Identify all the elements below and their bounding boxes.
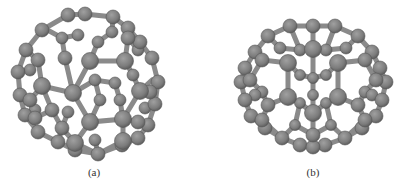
panel-b-fullerene: (b): [200, 0, 397, 195]
caption-b: (b): [293, 166, 333, 178]
caption-a: (a): [74, 166, 114, 178]
panel-a-fullerene: (a): [0, 0, 200, 195]
